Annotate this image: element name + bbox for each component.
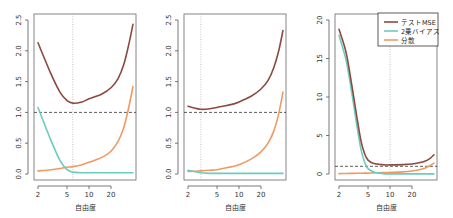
y-axis: 0.00.51.01.52.02.5 <box>15 14 28 179</box>
y-tick-label: 2.0 <box>165 45 173 56</box>
legend: テストMSE 2乗バイアス 分散 <box>378 13 440 46</box>
x-axis: 251020 <box>337 186 417 199</box>
x-tick-label: 10 <box>235 191 244 199</box>
y-tick-label: 0.5 <box>165 138 173 149</box>
y-tick-label: 0.0 <box>15 168 23 179</box>
curve-test-mse <box>188 30 283 109</box>
x-axis-label: 自由度 <box>75 203 96 212</box>
legend-label-variance: 分散 <box>401 36 415 45</box>
curve-test-mse <box>339 29 434 165</box>
panel-2: 0.00.51.01.52.02.5251020自由度 <box>165 14 286 212</box>
y-axis: 05101520 <box>316 16 329 177</box>
x-tick-label: 20 <box>408 191 417 199</box>
y-tick-label: 0 <box>316 172 324 176</box>
y-tick-label: 0.5 <box>15 138 23 149</box>
y-tick-label: 10 <box>316 93 324 102</box>
x-tick-label: 5 <box>215 191 219 199</box>
x-tick-label: 2 <box>337 191 341 199</box>
y-tick-label: 20 <box>316 16 324 25</box>
y-tick-label: 2.0 <box>15 45 23 56</box>
plot-area <box>34 14 136 180</box>
y-tick-label: 1.0 <box>165 107 173 118</box>
x-axis-label: 自由度 <box>376 203 397 212</box>
x-axis: 251020 <box>186 186 266 199</box>
x-tick-label: 5 <box>366 191 370 199</box>
y-tick-label: 2.5 <box>15 14 23 25</box>
y-tick-label: 15 <box>316 54 324 63</box>
x-tick-label: 10 <box>386 191 395 199</box>
y-tick-label: 5 <box>316 133 324 137</box>
y-tick-label: 0.0 <box>165 168 173 179</box>
x-tick-label: 20 <box>107 191 116 199</box>
x-tick-label: 2 <box>36 191 40 199</box>
y-tick-label: 1.0 <box>15 107 23 118</box>
y-axis: 0.00.51.01.52.02.5 <box>165 14 178 179</box>
legend-label-bias-sq: 2乗バイアス <box>401 27 440 36</box>
y-tick-label: 1.5 <box>15 76 23 87</box>
legend-label-test-mse: テストMSE <box>401 19 436 27</box>
figure: 0.00.51.01.52.02.5251020自由度 0.00.51.01.5… <box>0 0 453 218</box>
x-axis: 251020 <box>36 186 116 199</box>
curve-variance <box>38 87 133 171</box>
plot-area <box>184 14 286 180</box>
x-tick-label: 5 <box>65 191 69 199</box>
curve-bias-sq <box>339 35 434 174</box>
x-axis-label: 自由度 <box>225 203 246 212</box>
curve-test-mse <box>38 24 133 103</box>
x-tick-label: 2 <box>186 191 190 199</box>
y-tick-label: 2.5 <box>165 14 173 25</box>
x-tick-label: 20 <box>257 191 266 199</box>
y-tick-label: 1.5 <box>165 76 173 87</box>
x-tick-label: 10 <box>85 191 94 199</box>
panel-1: 0.00.51.01.52.02.5251020自由度 <box>15 14 136 212</box>
